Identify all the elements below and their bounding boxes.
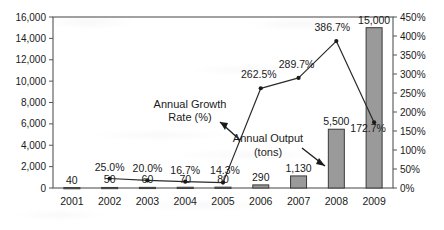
growth-rate-value-label: 25.0% [95,161,125,173]
bar[interactable] [102,187,118,188]
y2-axis-tick-label: 400% [400,31,426,42]
output-annotation-line2: (tons) [254,146,282,158]
combo-chart: 02,0004,0006,0008,00010,00012,00014,0001… [0,0,444,230]
data-point-marker[interactable] [334,39,338,43]
growth-rate-value-label: 16.7% [170,164,200,176]
data-point-marker[interactable] [183,180,187,184]
bar[interactable] [139,187,155,188]
y2-axis-tick-label: 200% [400,107,426,118]
bar[interactable] [177,187,193,188]
data-point-marker[interactable] [221,180,225,184]
growth-annotation-line1: Annual Growth [154,98,227,110]
y2-axis-tick-label: 50% [400,164,420,175]
growth-annotation-line2: Rate (%) [168,111,211,123]
bar[interactable] [64,188,80,189]
y2-axis-tick-label: 250% [400,88,426,99]
y-axis-tick-label: 14,000 [15,33,46,44]
y-axis-tick-label: 8,000 [21,97,46,108]
bar-value-label: 5,500 [323,115,349,127]
y-axis-tick-label: 6,000 [21,118,46,129]
y2-axis-tick-label: 100% [400,145,426,156]
x-axis-tick-label: 2001 [60,195,84,207]
x-axis-tick-label: 2003 [136,195,160,207]
data-point-marker[interactable] [145,178,149,182]
growth-rate-value-label: 20.0% [133,162,163,174]
x-axis-tick-label: 2004 [174,195,198,207]
x-axis-tick-label: 2002 [98,195,122,207]
x-axis-tick-label: 2005 [211,195,235,207]
bar[interactable] [253,185,269,188]
chart-container: 02,0004,0006,0008,00010,00012,00014,0001… [0,0,444,230]
y2-axis-tick-label: 350% [400,50,426,61]
growth-rate-value-label: 262.5% [241,68,277,80]
y2-axis-tick-label: 300% [400,69,426,80]
output-annotation-line1: Annual Output [233,132,303,144]
x-axis-tick-label: 2006 [249,195,273,207]
data-point-marker[interactable] [108,176,112,180]
growth-rate-value-label: 289.7% [279,58,315,70]
data-point-marker[interactable] [259,86,263,90]
growth-rate-value-label: 172.7% [350,122,386,134]
bar-value-label: 290 [252,171,270,183]
x-axis-tick-label: 2007 [287,195,311,207]
bar-value-label: 15,000 [358,14,390,26]
y-axis-tick-label: 12,000 [15,54,46,65]
bar[interactable] [366,28,382,188]
y2-axis-tick-label: 450% [400,12,426,23]
x-axis-tick-label: 2009 [362,195,386,207]
y-axis-tick-label: 4,000 [21,140,46,151]
x-axis-tick-label: 2008 [325,195,349,207]
bar-value-label: 1,130 [285,162,311,174]
y-axis-tick-label: 2,000 [21,161,46,172]
growth-rate-value-label: 14.3% [210,164,240,176]
y-axis-tick-label: 0 [40,183,46,194]
bar[interactable] [291,176,307,188]
y2-axis-tick-label: 0% [400,183,415,194]
growth-rate-value-label: 386.7% [315,21,351,33]
y-axis-tick-label: 16,000 [15,12,46,23]
y2-axis-tick-label: 150% [400,126,426,137]
data-point-marker[interactable] [296,76,300,80]
bar-value-label: 40 [66,174,78,186]
bar[interactable] [215,187,231,188]
y-axis-tick-label: 10,000 [15,76,46,87]
bar[interactable] [328,129,344,188]
